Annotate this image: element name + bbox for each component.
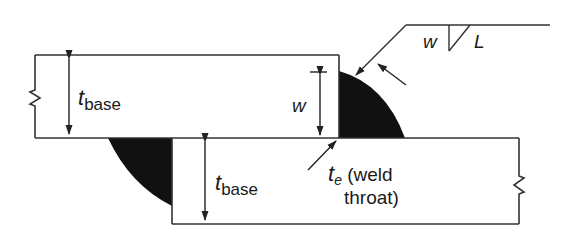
weld-symbol-size-label: w xyxy=(423,32,437,51)
w-dimension xyxy=(310,72,327,135)
weld-symbol-length-label: L xyxy=(474,32,485,51)
lower-fillet-weld xyxy=(108,138,172,206)
weld-symbol-leader xyxy=(356,25,550,75)
weld-face-arrow xyxy=(378,64,406,85)
w-dimension-label: w xyxy=(292,96,306,115)
t-base-top-label: tbase xyxy=(78,87,121,109)
upper-fillet-weld xyxy=(339,71,405,138)
throat-label-line2: throat) xyxy=(344,188,399,207)
weld-diagram-svg xyxy=(0,0,580,237)
t-base-bottom-label: tbase xyxy=(215,172,258,194)
weld-diagram: tbase tbase w w L te (weld throat) xyxy=(0,0,580,237)
throat-label: te (weld xyxy=(328,163,393,185)
